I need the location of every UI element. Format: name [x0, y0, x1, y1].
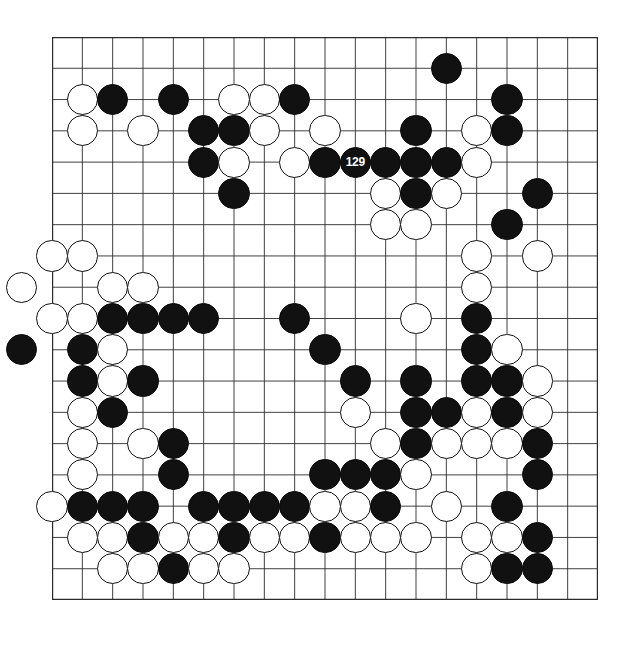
stone-white[interactable]	[249, 522, 280, 553]
stone-white[interactable]	[461, 522, 492, 553]
stone-white[interactable]	[36, 491, 67, 522]
stone-black[interactable]	[431, 53, 462, 84]
stone-black[interactable]	[127, 365, 158, 396]
stone-black[interactable]	[127, 522, 158, 553]
stone-white[interactable]	[97, 334, 128, 365]
stone-black[interactable]	[158, 459, 189, 490]
stone-black[interactable]	[97, 84, 128, 115]
stone-white[interactable]	[6, 272, 37, 303]
stone-white[interactable]	[522, 365, 553, 396]
stone-black[interactable]	[249, 491, 280, 522]
stone-white[interactable]	[370, 428, 401, 459]
stone-white[interactable]	[67, 428, 98, 459]
stone-black[interactable]	[340, 459, 371, 490]
stone-black[interactable]	[218, 178, 249, 209]
stone-white[interactable]	[461, 553, 492, 584]
stone-white[interactable]	[340, 522, 371, 553]
stone-black[interactable]	[491, 209, 522, 240]
stone-white[interactable]	[97, 553, 128, 584]
stone-black[interactable]	[67, 334, 98, 365]
stone-white[interactable]	[340, 397, 371, 428]
stone-white[interactable]	[491, 522, 522, 553]
stone-black[interactable]	[279, 84, 310, 115]
stone-black[interactable]	[158, 84, 189, 115]
stone-white[interactable]	[461, 397, 492, 428]
stone-black[interactable]	[309, 459, 340, 490]
stone-black[interactable]	[218, 522, 249, 553]
stone-black[interactable]	[491, 553, 522, 584]
stone-black[interactable]	[431, 397, 462, 428]
stone-white[interactable]	[97, 272, 128, 303]
go-board[interactable]: 129	[52, 37, 598, 600]
stone-black[interactable]	[218, 115, 249, 146]
stone-white[interactable]	[309, 115, 340, 146]
stone-white[interactable]	[400, 522, 431, 553]
stone-white[interactable]	[67, 397, 98, 428]
stone-black[interactable]	[127, 491, 158, 522]
stone-white[interactable]	[67, 84, 98, 115]
stone-black[interactable]	[97, 397, 128, 428]
stone-white[interactable]	[67, 522, 98, 553]
stone-white[interactable]	[431, 491, 462, 522]
stone-white[interactable]	[279, 522, 310, 553]
stone-white[interactable]	[97, 365, 128, 396]
stone-black[interactable]	[279, 303, 310, 334]
stone-black[interactable]	[6, 334, 37, 365]
stone-white[interactable]	[218, 84, 249, 115]
stone-white[interactable]	[370, 522, 401, 553]
stone-black[interactable]	[491, 397, 522, 428]
stone-black[interactable]	[279, 491, 310, 522]
stone-white[interactable]	[400, 209, 431, 240]
stone-black[interactable]	[461, 365, 492, 396]
stone-white[interactable]	[36, 303, 67, 334]
stone-black[interactable]	[309, 334, 340, 365]
stone-white[interactable]	[67, 459, 98, 490]
stone-white[interactable]	[431, 428, 462, 459]
stone-black[interactable]	[158, 428, 189, 459]
stone-black[interactable]	[309, 147, 340, 178]
stone-black[interactable]	[188, 303, 219, 334]
stone-white[interactable]	[279, 147, 310, 178]
stone-white[interactable]	[249, 115, 280, 146]
stone-white[interactable]	[249, 84, 280, 115]
stone-black[interactable]	[461, 334, 492, 365]
stone-black[interactable]	[400, 178, 431, 209]
stone-black[interactable]	[218, 491, 249, 522]
stone-white[interactable]	[67, 240, 98, 271]
stone-black[interactable]	[522, 428, 553, 459]
stone-black[interactable]	[370, 491, 401, 522]
stone-white[interactable]	[36, 240, 67, 271]
stone-white[interactable]	[400, 459, 431, 490]
stone-white[interactable]	[370, 209, 401, 240]
stone-black[interactable]	[491, 115, 522, 146]
stone-white[interactable]	[340, 491, 371, 522]
stone-white[interactable]	[127, 115, 158, 146]
stone-white[interactable]	[461, 115, 492, 146]
stone-white[interactable]	[461, 240, 492, 271]
stone-black[interactable]	[127, 303, 158, 334]
stone-black[interactable]	[491, 365, 522, 396]
stone-black-marked[interactable]: 129	[340, 147, 371, 178]
stone-white[interactable]	[522, 397, 553, 428]
stone-white[interactable]	[188, 553, 219, 584]
stone-black[interactable]	[370, 147, 401, 178]
stone-black[interactable]	[188, 115, 219, 146]
stone-black[interactable]	[491, 84, 522, 115]
stone-white[interactable]	[67, 303, 98, 334]
stone-white[interactable]	[127, 272, 158, 303]
stone-black[interactable]	[400, 147, 431, 178]
stone-black[interactable]	[431, 147, 462, 178]
stone-white[interactable]	[127, 553, 158, 584]
stone-black[interactable]	[158, 553, 189, 584]
stone-black[interactable]	[97, 491, 128, 522]
stone-white[interactable]	[370, 178, 401, 209]
stone-white[interactable]	[491, 428, 522, 459]
stone-white[interactable]	[158, 522, 189, 553]
stone-black[interactable]	[67, 365, 98, 396]
stone-white[interactable]	[400, 303, 431, 334]
stone-black[interactable]	[340, 365, 371, 396]
stone-white[interactable]	[309, 491, 340, 522]
stone-black[interactable]	[461, 303, 492, 334]
stone-black[interactable]	[522, 459, 553, 490]
stone-black[interactable]	[158, 303, 189, 334]
